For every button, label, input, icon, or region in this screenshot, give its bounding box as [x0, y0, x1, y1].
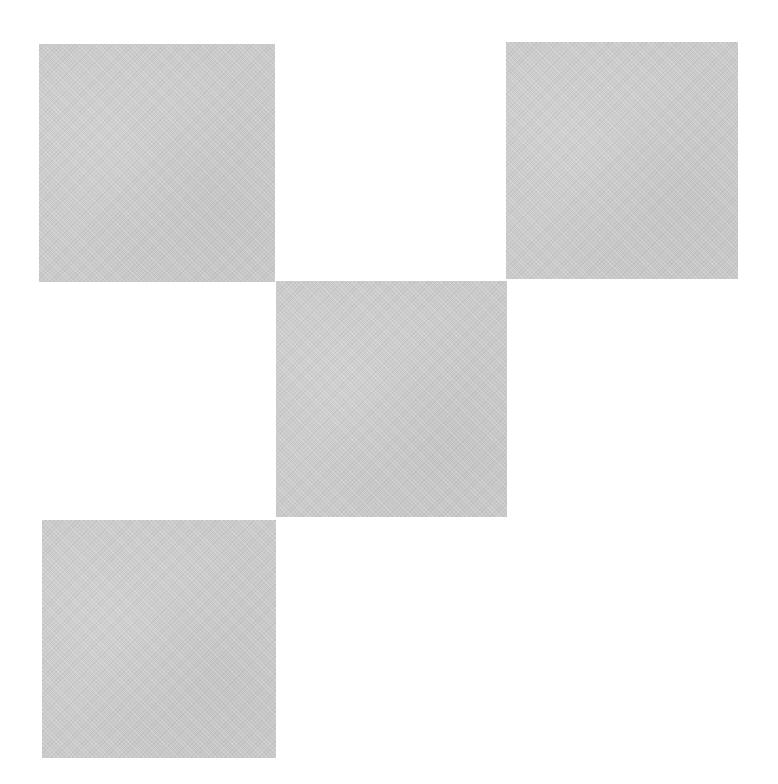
gray-square-top-left — [39, 44, 275, 282]
gray-square-bottom-left — [42, 520, 276, 758]
gray-square-top-right — [506, 42, 738, 279]
gray-square-middle — [276, 281, 507, 517]
figure-canvas — [0, 0, 778, 784]
